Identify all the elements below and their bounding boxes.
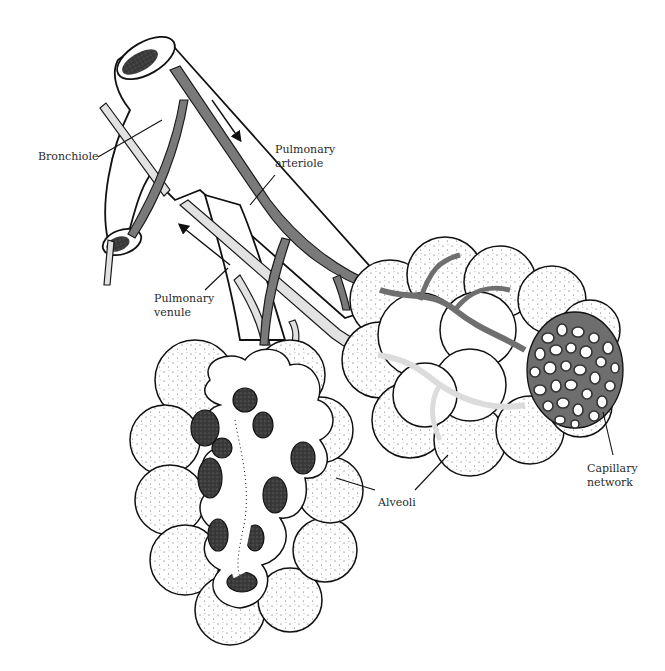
label-pulmonary-arteriole-line2: arteriole bbox=[275, 157, 335, 171]
venule-leader bbox=[205, 268, 228, 290]
lung-anatomy-illustration bbox=[0, 0, 665, 671]
label-pulmonary-arteriole-line1: Pulmonary bbox=[275, 143, 335, 157]
capillary-network bbox=[527, 312, 623, 428]
label-capillary-network-line2: network bbox=[587, 476, 638, 490]
label-alveoli-text: Alveoli bbox=[378, 496, 416, 509]
label-bronchiole-text: Bronchiole bbox=[38, 150, 98, 163]
alveoli-leader-right bbox=[415, 455, 448, 490]
label-capillary-network: Capillary network bbox=[587, 462, 638, 490]
label-capillary-network-line1: Capillary bbox=[587, 462, 638, 476]
label-alveoli: Alveoli bbox=[378, 496, 416, 510]
alveolar-sac-intact bbox=[342, 237, 623, 476]
alveolar-sac-cutaway bbox=[130, 340, 363, 645]
label-pulmonary-venule-line2: venule bbox=[154, 306, 214, 320]
label-pulmonary-venule: Pulmonary venule bbox=[154, 292, 214, 320]
label-pulmonary-arteriole: Pulmonary arteriole bbox=[275, 143, 335, 171]
label-pulmonary-venule-line1: Pulmonary bbox=[154, 292, 214, 306]
label-bronchiole: Bronchiole bbox=[38, 150, 98, 164]
